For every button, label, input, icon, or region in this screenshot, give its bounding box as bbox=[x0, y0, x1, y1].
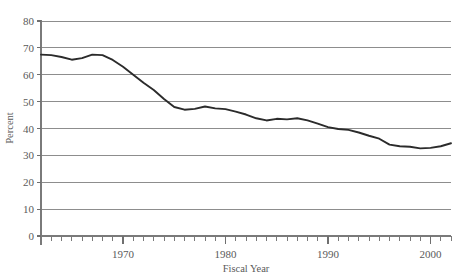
x-tick-labels-group: 1970198019902000 bbox=[112, 248, 442, 260]
line-chart: 01020304050607080 1970198019902000 Fisca… bbox=[0, 0, 463, 279]
y-tick-label-60: 60 bbox=[23, 69, 35, 81]
x-tick-label-1990: 1990 bbox=[317, 248, 340, 260]
y-tick-labels-group: 01020304050607080 bbox=[23, 15, 35, 242]
x-tick-label-1980: 1980 bbox=[215, 248, 238, 260]
x-tick-label-2000: 2000 bbox=[420, 248, 443, 260]
y-axis-group bbox=[37, 20, 41, 245]
y-tick-label-0: 0 bbox=[29, 230, 35, 242]
x-axis-title: Fiscal Year bbox=[223, 263, 270, 274]
y-tick-label-50: 50 bbox=[23, 96, 35, 108]
x-axis-group bbox=[41, 236, 451, 244]
y-tick-label-40: 40 bbox=[23, 123, 35, 135]
y-axis-title: Percent bbox=[4, 112, 15, 144]
y-tick-label-80: 80 bbox=[23, 15, 35, 27]
x-tick-label-1970: 1970 bbox=[112, 248, 135, 260]
y-tick-label-10: 10 bbox=[23, 203, 35, 215]
y-tick-label-20: 20 bbox=[23, 176, 35, 188]
y-tick-label-30: 30 bbox=[23, 149, 35, 161]
y-tick-label-70: 70 bbox=[23, 42, 35, 54]
chart-container: 01020304050607080 1970198019902000 Fisca… bbox=[0, 0, 463, 279]
